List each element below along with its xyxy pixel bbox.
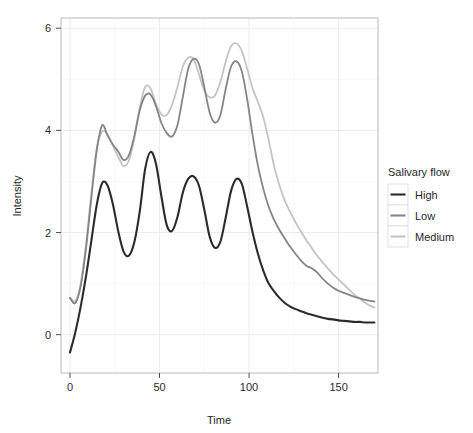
legend-label-low[interactable]: Low [415,210,435,222]
chart-legend: Salivary flow HighLowMedium [388,166,454,247]
y-tick-label: 2 [45,227,51,239]
y-tick-label: 0 [45,329,51,341]
y-axis: 0246 [45,22,61,340]
x-tick-label: 0 [67,381,73,393]
x-axis-title: Time [207,414,231,426]
legend-items: HighLowMedium [388,184,454,247]
x-tick-label: 150 [329,381,347,393]
legend-title: Salivary flow [388,166,450,178]
legend-label-medium[interactable]: Medium [415,231,454,243]
legend-label-high[interactable]: High [415,189,438,201]
chart-figure: 050100150 0246 Time Intensity Salivary f… [0,0,473,433]
x-tick-label: 100 [240,381,258,393]
x-axis: 050100150 [67,373,348,393]
y-axis-title: Intensity [11,175,23,216]
chart-canvas: 050100150 0246 Time Intensity Salivary f… [0,0,473,433]
y-tick-label: 4 [45,124,51,136]
y-tick-label: 6 [45,22,51,34]
x-tick-label: 50 [153,381,165,393]
